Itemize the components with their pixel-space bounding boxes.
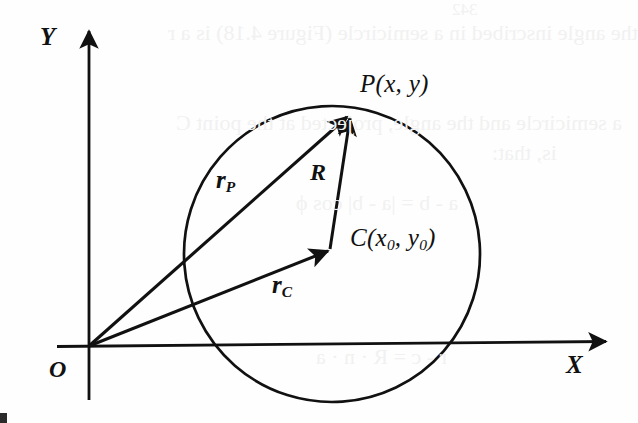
y-axis-label: Y — [40, 24, 55, 49]
point-c-suffix: ) — [427, 224, 436, 251]
vector-rc-label: rC — [272, 272, 292, 300]
point-c-sub-y0: 0 — [419, 236, 427, 253]
figure-container: 342 the angle inscribed in a semicircle … — [0, 0, 638, 423]
x-axis-label: X — [566, 352, 583, 377]
vector-rc-line — [89, 251, 328, 346]
point-c-middle: , y — [395, 224, 420, 251]
vector-rc-base: r — [272, 271, 282, 298]
radius-label: R — [310, 160, 326, 184]
point-c-sub-x0: 0 — [387, 236, 395, 253]
vector-rp-sub: P — [226, 178, 235, 195]
origin-label: O — [49, 357, 66, 381]
vector-rp-base: r — [216, 166, 226, 193]
vector-rp-line — [89, 117, 347, 346]
x-axis — [57, 342, 606, 347]
circle-vector-diagram — [0, 0, 638, 423]
circle-outline — [174, 96, 490, 412]
point-c-label: C(x0, y0) — [350, 225, 436, 253]
point-c-prefix: C(x — [350, 224, 387, 251]
point-p-label: P(x, y) — [360, 71, 429, 96]
vector-rc-sub: C — [282, 283, 292, 300]
page-edge-mark — [0, 413, 7, 423]
vector-r-line — [330, 118, 350, 249]
vector-rp-label: rP — [216, 167, 235, 195]
